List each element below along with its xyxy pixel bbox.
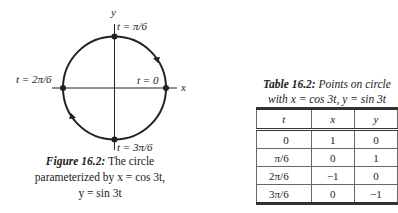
label-t-2pi6: t = 2π/6 xyxy=(16,73,52,85)
points-table: t x y 0 1 0 π/6 0 1 2π/6 −1 0 3π/6 0 −1 xyxy=(256,107,398,205)
figure-number: Figure 16.2: xyxy=(46,155,105,167)
label-t0: t = 0 xyxy=(137,74,158,86)
x-axis-label: x xyxy=(181,81,186,93)
table-row: 3π/6 0 −1 xyxy=(257,185,398,204)
header-t: t xyxy=(257,109,312,130)
table-row: 2π/6 −1 0 xyxy=(257,167,398,185)
y-axis-label: y xyxy=(111,6,116,18)
table-header-row: t x y xyxy=(257,109,398,130)
figure-caption: Figure 16.2: The circle parameterized by… xyxy=(20,153,180,201)
table-row: 0 1 0 xyxy=(257,130,398,149)
label-t-3pi6: t = 3π/6 xyxy=(117,141,153,153)
table-number: Table 16.2: xyxy=(263,78,316,90)
header-y: y xyxy=(354,109,397,130)
table-row: π/6 0 1 xyxy=(257,149,398,167)
table-title: Table 16.2: Points on circle with x = co… xyxy=(252,77,398,107)
label-t-pi6: t = π/6 xyxy=(117,20,147,32)
point-t-2pi6 xyxy=(60,85,66,91)
point-t0 xyxy=(163,85,169,91)
point-t-pi6 xyxy=(112,34,118,40)
header-x: x xyxy=(311,109,354,130)
